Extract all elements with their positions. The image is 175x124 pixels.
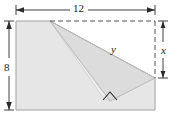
- height-label: 8: [4, 62, 10, 73]
- width-arrowhead-right-icon: [147, 7, 155, 13]
- right-segment-label-x: x: [161, 45, 166, 56]
- figure-canvas: [0, 0, 175, 124]
- width-arrowhead-left-icon: [16, 7, 24, 13]
- x-arrowhead-bottom-icon: [161, 71, 166, 78]
- x-arrowhead-top-icon: [161, 21, 166, 28]
- paper-group: [16, 21, 155, 110]
- height-arrowhead-bottom-icon: [6, 102, 12, 110]
- width-dimension-group: [16, 5, 155, 15]
- width-label: 12: [73, 3, 84, 14]
- height-arrowhead-top-icon: [6, 21, 12, 29]
- geometry-figure: 12 8 y x: [0, 0, 175, 124]
- hypotenuse-label-y: y: [111, 44, 116, 55]
